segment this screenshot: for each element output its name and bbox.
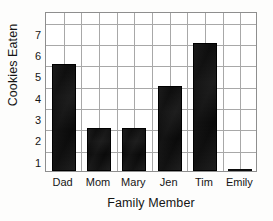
x-tick-label: Emily (226, 175, 253, 189)
bar-emily (228, 169, 252, 171)
y-axis-tick-labels: 1234567 (8, 12, 41, 172)
y-tick-label: 1 (11, 157, 41, 168)
y-tick-label: 2 (11, 136, 41, 147)
bar-tim (193, 43, 217, 171)
x-tick-label: Dad (53, 175, 73, 189)
bar-mom (87, 128, 111, 171)
plot-area (45, 12, 257, 172)
y-tick-label: 4 (11, 93, 41, 104)
bar-mary (122, 128, 146, 171)
x-tick-label: Tim (195, 175, 213, 189)
y-tick-label: 5 (11, 72, 41, 83)
bar-jen (158, 86, 182, 171)
x-tick-label: Jen (160, 175, 178, 189)
bars-group (46, 13, 256, 171)
x-tick-label: Mary (121, 175, 145, 189)
x-axis-title: Family Member (45, 196, 257, 210)
bar-dad (52, 64, 76, 171)
x-tick-label: Mom (86, 175, 110, 189)
y-tick-label: 6 (11, 51, 41, 62)
x-axis-tick-labels: DadMomMaryJenTimEmily (45, 175, 257, 191)
y-tick-label: 3 (11, 115, 41, 126)
y-tick-label: 7 (11, 29, 41, 40)
bar-chart: Cookies Eaten 1234567 DadMomMaryJenTimEm… (0, 0, 273, 221)
